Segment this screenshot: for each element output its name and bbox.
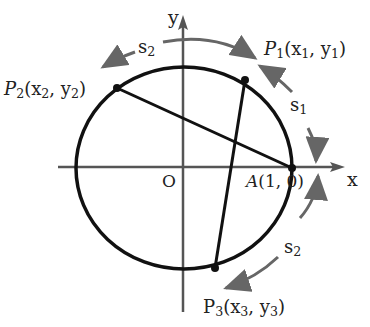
point-p2-label: P2(x2, y2) (4, 80, 86, 101)
point-p2 (113, 84, 121, 92)
point-p3-label: P3(x3, y3) (203, 298, 285, 319)
arc-s1-lower (308, 128, 316, 161)
arc-s2-top-label: s2 (138, 38, 155, 59)
y-axis-label: y (168, 8, 179, 27)
arc-s1-upper (260, 66, 292, 92)
x-axis-label: x (347, 170, 358, 189)
arc-s2-top-right-arrow (163, 39, 255, 58)
arc-s2-bottom-label: s2 (284, 238, 301, 259)
point-a-label: A(1, 0) (246, 173, 304, 190)
arc-s1-label: s1 (290, 96, 307, 117)
point-p1-label: P1(x1, y1) (264, 40, 346, 61)
point-p3 (211, 264, 219, 272)
arc-s2-bottom-lower (226, 257, 278, 288)
origin-label: O (162, 173, 176, 190)
arc-s2-top-left-arrow (103, 52, 135, 67)
chord-p1-p3 (215, 80, 245, 268)
point-p1 (241, 76, 249, 84)
diagram-canvas: y x O A(1, 0) P1(x1, y1) P2(x2, y2) P3(x… (0, 0, 370, 327)
